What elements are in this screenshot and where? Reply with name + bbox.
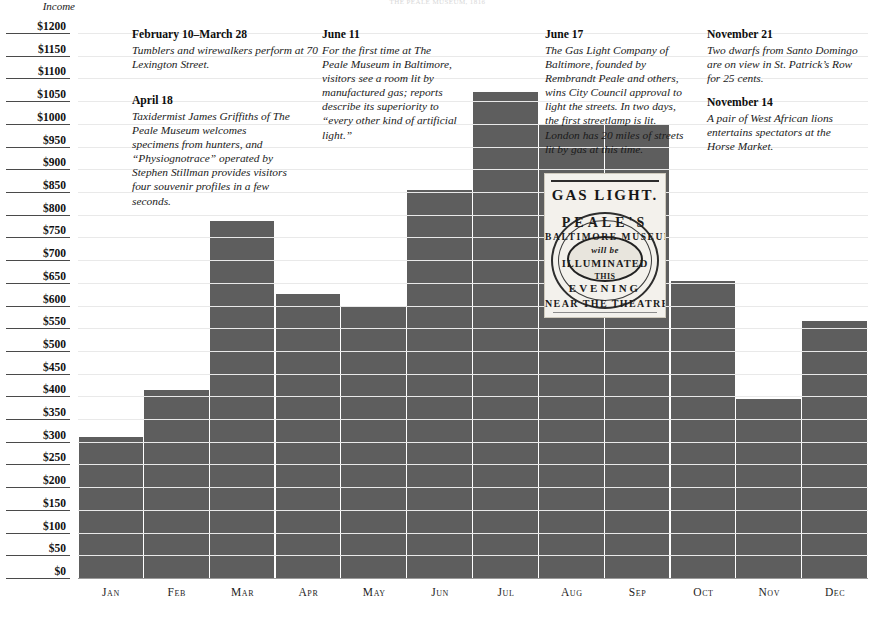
annotation-body: Tumblers and wirewalkers perform at 70 L… xyxy=(132,43,320,71)
x-axis-labels: JanFebMarAprMayJunJulAugSepOctNovDec xyxy=(78,586,868,612)
y-axis-tick-rule xyxy=(6,442,70,443)
y-axis-tick-label: $150 xyxy=(43,497,66,509)
y-axis-tick-rule xyxy=(6,510,70,511)
y-axis-tick-rule xyxy=(6,237,70,238)
y-axis-tick-rule xyxy=(6,328,70,329)
x-axis-tick-apr: Apr xyxy=(276,586,342,598)
y-axis-tick-label: $700 xyxy=(43,247,66,259)
broadside-heading: GAS LIGHT. xyxy=(545,187,665,204)
y-axis-tick-label: $600 xyxy=(43,293,66,305)
y-axis-tick-rule xyxy=(6,147,70,148)
y-axis-tick-label: $400 xyxy=(43,383,66,395)
x-axis-tick-jul: Jul xyxy=(473,586,539,598)
bar-may[interactable] xyxy=(341,306,407,579)
broadside-line-1: PEALE'S xyxy=(545,215,665,231)
annotation-title: November 14 xyxy=(707,96,859,110)
x-axis-tick-oct: Oct xyxy=(671,586,737,598)
bar-dec[interactable] xyxy=(802,321,868,578)
y-axis-tick-label: $500 xyxy=(43,338,66,350)
y-axis-tick-label: $900 xyxy=(43,156,66,168)
x-axis-tick-dec: Dec xyxy=(802,586,868,598)
y-axis-tick-rule xyxy=(6,578,70,579)
bar-mar[interactable] xyxy=(210,221,276,578)
y-axis-tick-rule xyxy=(6,101,70,102)
y-axis-tick-rule xyxy=(6,78,70,79)
x-axis-tick-aug: Aug xyxy=(539,586,605,598)
bar-oct[interactable] xyxy=(671,281,737,578)
x-axis-tick-sep: Sep xyxy=(605,586,671,598)
y-axis-labels: $1200$1150$1100$1050$1000$950$900$850$80… xyxy=(0,0,72,600)
y-axis-tick-rule xyxy=(6,374,70,375)
broadside-line-7: NEAR THE THEATRE xyxy=(545,298,665,309)
y-axis-tick-rule xyxy=(6,419,70,420)
x-axis-tick-jun: Jun xyxy=(407,586,473,598)
annotation-jun-17: June 17 The Gas Light Company of Baltimo… xyxy=(545,28,688,156)
annotation-nov-14: November 14 A pair of West African lions… xyxy=(707,96,859,153)
y-axis-tick-rule xyxy=(6,396,70,397)
y-axis-tick-label: $1200 xyxy=(37,20,66,32)
y-axis-tick-label: $1050 xyxy=(37,88,66,100)
y-axis-tick-rule xyxy=(6,215,70,216)
y-axis-tick-rule xyxy=(6,283,70,284)
annotation-body: Two dwarfs from Santo Domingo are on vie… xyxy=(707,43,859,85)
x-axis-tick-mar: Mar xyxy=(210,586,276,598)
bar-feb[interactable] xyxy=(144,390,210,578)
annotation-title: June 11 xyxy=(322,28,457,42)
y-axis-tick-label: $1150 xyxy=(38,43,66,55)
annotation-jun-11: June 11 For the first time at The Peale … xyxy=(322,28,457,142)
y-axis-tick-label: $100 xyxy=(43,520,66,532)
y-axis-tick-rule xyxy=(6,533,70,534)
broadside-top-rule xyxy=(551,180,659,182)
annotation-feb-mar: February 10–March 28 Tumblers and wirewa… xyxy=(132,28,320,71)
bar-jul[interactable] xyxy=(473,92,539,578)
gas-light-broadside-image: GAS LIGHT. PEALE'S BALTIMORE MUSEUM will… xyxy=(544,173,666,318)
broadside-line-2: BALTIMORE MUSEUM xyxy=(545,232,665,242)
annotation-title: April 18 xyxy=(132,94,292,108)
chart-canvas: THE PEALE MUSEUM, 1816 Income $1200$1150… xyxy=(0,0,875,618)
plot-area xyxy=(78,0,868,578)
y-axis-tick-rule xyxy=(6,33,70,34)
y-axis-tick-rule xyxy=(6,555,70,556)
bar-jan[interactable] xyxy=(78,437,144,578)
y-axis-tick-label: $0 xyxy=(55,565,67,577)
y-axis-tick-label: $1000 xyxy=(37,111,66,123)
annotation-apr-18: April 18 Taxidermist James Griffiths of … xyxy=(132,94,292,208)
bar-jun[interactable] xyxy=(407,190,473,578)
y-axis-tick-label: $650 xyxy=(43,270,66,282)
broadside-line-4: ILLUMINATED xyxy=(545,258,665,269)
axis-baseline xyxy=(78,578,868,579)
broadside-bottom-rule xyxy=(553,312,657,313)
bar-apr[interactable] xyxy=(276,294,342,578)
y-axis-tick-label: $350 xyxy=(43,406,66,418)
x-axis-tick-feb: Feb xyxy=(144,586,210,598)
x-axis-tick-nov: Nov xyxy=(736,586,802,598)
annotation-title: June 17 xyxy=(545,28,688,42)
annotation-nov-21: November 21 Two dwarfs from Santo Doming… xyxy=(707,28,859,85)
y-axis-tick-rule xyxy=(6,192,70,193)
y-axis-tick-label: $850 xyxy=(43,179,66,191)
y-axis-tick-rule xyxy=(6,260,70,261)
annotation-body: For the first time at The Peale Museum i… xyxy=(322,43,457,142)
y-axis-tick-rule xyxy=(6,306,70,307)
annotation-title: February 10–March 28 xyxy=(132,28,320,42)
y-axis-tick-label: $750 xyxy=(43,224,66,236)
y-axis-tick-rule xyxy=(6,124,70,125)
y-axis-tick-label: $550 xyxy=(43,315,66,327)
annotation-title: November 21 xyxy=(707,28,859,42)
broadside-line-3: will be xyxy=(545,245,665,255)
bar-nov[interactable] xyxy=(736,399,802,578)
y-axis-tick-rule xyxy=(6,56,70,57)
y-axis-tick-rule xyxy=(6,169,70,170)
y-axis-tick-rule xyxy=(6,464,70,465)
y-axis-tick-label: $50 xyxy=(49,542,66,554)
y-axis-tick-label: $950 xyxy=(43,134,66,146)
y-axis-tick-label: $800 xyxy=(43,202,66,214)
y-axis-tick-rule xyxy=(6,351,70,352)
broadside-line-5: THIS xyxy=(545,272,665,281)
broadside-line-6: EVENING xyxy=(545,282,665,294)
annotation-body: The Gas Light Company of Baltimore, foun… xyxy=(545,43,688,156)
y-axis-tick-label: $1100 xyxy=(38,65,66,77)
y-axis-tick-label: $200 xyxy=(43,474,66,486)
y-axis-tick-label: $250 xyxy=(43,451,66,463)
x-axis-tick-jan: Jan xyxy=(78,586,144,598)
